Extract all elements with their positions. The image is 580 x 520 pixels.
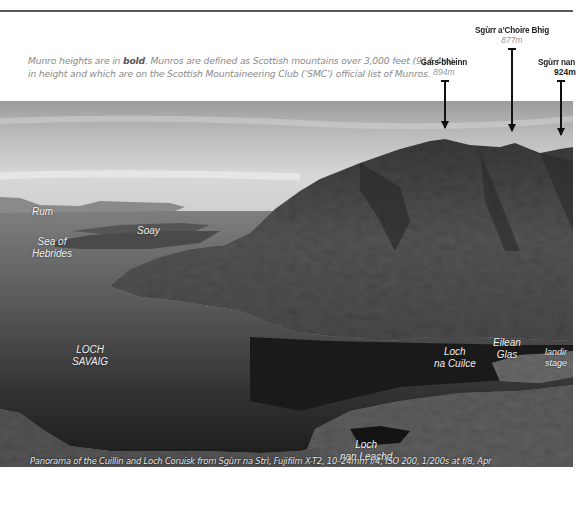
peak-height: 894m <box>404 67 484 77</box>
peak-sgurr-nan: Sgùrr nan 924m <box>538 56 580 77</box>
label-line: landir <box>545 347 567 358</box>
note-text: Munro heights are in <box>28 55 123 66</box>
label-line: na Cuilce <box>434 358 476 370</box>
label-loch-na-cuilce: Loch na Cuilce <box>434 346 476 370</box>
peak-height: 877m <box>462 35 562 45</box>
label-line: Hebrides <box>32 248 72 260</box>
label-line: stage <box>545 358 567 369</box>
label-line: Loch <box>434 346 476 358</box>
peak-sgurr-a-choire-bhig: Sgùrr a’Choire Bhig 877m <box>462 24 562 45</box>
label-soay: Soay <box>137 225 160 237</box>
munro-note-line-2: in height and which are on the Scottish … <box>28 67 388 80</box>
panorama-photo: Rum Soay Sea of Hebrides LOCH SAVAIG Loc… <box>0 101 573 467</box>
photo-caption: Panorama of the Cuillin and Loch Coruisk… <box>30 456 491 466</box>
peak-name: Sgùrr nan <box>538 56 580 67</box>
top-rule <box>0 10 573 12</box>
arrow-down-icon <box>444 80 446 128</box>
label-loch-savaig: LOCH SAVAIG <box>72 344 108 368</box>
label-landing-stage: landir stage <box>545 347 567 369</box>
label-eilean-glas: Eilean Glas <box>493 337 521 361</box>
label-sea-of-hebrides: Sea of Hebrides <box>32 236 72 260</box>
label-rum: Rum <box>32 206 53 218</box>
label-line: Glas <box>493 349 521 361</box>
note-bold-word: bold <box>123 55 145 66</box>
arrow-down-icon <box>560 80 562 135</box>
peak-height: 924m <box>538 67 580 77</box>
munro-note-line-1: Munro heights are in bold. Munros are de… <box>28 54 388 67</box>
label-line: Loch <box>340 439 392 451</box>
peak-name: Sgùrr a’Choire Bhig <box>469 24 555 35</box>
munro-note: Munro heights are in bold. Munros are de… <box>28 54 388 80</box>
label-line: Sea of <box>32 236 72 248</box>
peak-gars-bheinn: Gars-bheinn 894m <box>404 56 484 77</box>
arrow-down-icon <box>511 48 513 131</box>
label-line: Eilean <box>493 337 521 349</box>
label-line: LOCH <box>72 344 108 356</box>
label-line: SAVAIG <box>72 356 108 368</box>
peak-name: Gars-bheinn <box>410 56 479 67</box>
